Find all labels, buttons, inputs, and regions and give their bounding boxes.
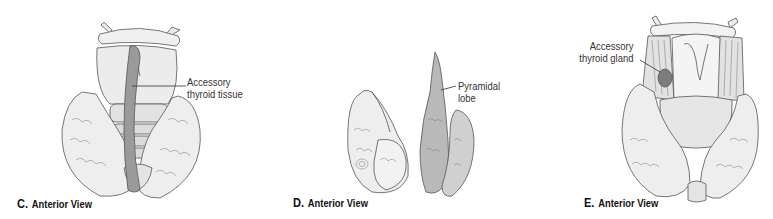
callout-pyramidal-lobe: Pyramidal lobe: [458, 80, 500, 104]
view-label: Anterior View: [32, 198, 92, 210]
view-label: Anterior View: [308, 197, 368, 209]
caption-c: C. Anterior View: [17, 194, 92, 212]
panel-d: Pyramidal lobe D. Anterior View: [260, 0, 520, 219]
panel-letter: C.: [17, 196, 28, 211]
callout-accessory-thyroid-tissue: Accessory thyroid tissue: [187, 76, 243, 100]
thyroid-illustration-e: [520, 0, 773, 219]
panel-e: Accessory thyroid gland E. Anterior View: [520, 0, 773, 219]
thyroid-illustration-d: [260, 0, 520, 219]
caption-d: D. Anterior View: [293, 193, 368, 211]
view-label: Anterior View: [598, 197, 658, 209]
panel-letter: E.: [584, 195, 594, 210]
callout-accessory-thyroid-gland: Accessory thyroid gland: [574, 40, 633, 64]
panel-letter: D.: [293, 195, 304, 210]
caption-e: E. Anterior View: [584, 193, 658, 211]
panel-c: Accessory thyroid tissue C. Anterior Vie…: [0, 0, 260, 219]
thyroid-illustration-c: [0, 0, 260, 219]
